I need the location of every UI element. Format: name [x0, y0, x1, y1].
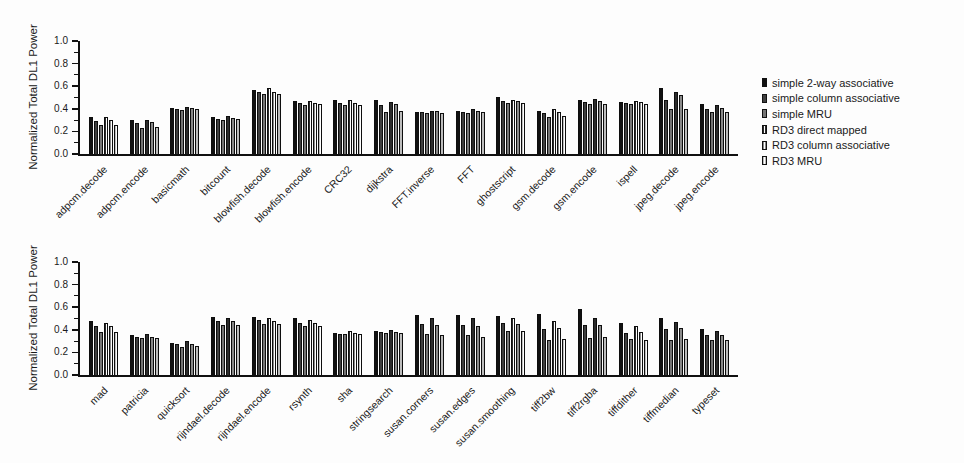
bar	[338, 103, 342, 154]
bar	[634, 101, 638, 154]
y-axis-major-tick	[72, 329, 78, 331]
y-axis-tick-label: 0.8	[38, 58, 68, 70]
y-axis-major-tick	[72, 63, 78, 65]
bar	[471, 318, 475, 375]
bar	[333, 100, 337, 154]
bar	[440, 335, 444, 375]
legend-item: RD3 column associative	[762, 137, 900, 153]
legend-item: RD3 MRU	[762, 153, 900, 169]
bar	[190, 344, 194, 375]
bar	[170, 343, 174, 375]
bar	[348, 100, 352, 154]
bar	[308, 101, 312, 154]
bar	[394, 104, 398, 154]
bar	[624, 103, 628, 154]
bar-group-tiff2rgba	[572, 262, 613, 375]
x-axis-label-cell: rijndael.encode	[244, 379, 285, 441]
x-axis-label-cell: CRC32	[326, 158, 367, 220]
bar	[430, 111, 434, 154]
bar	[593, 99, 597, 154]
bar	[430, 318, 434, 375]
bottom-panel-x-axis-labels: madpatriciaquicksortrijndael.decoderijnd…	[78, 379, 736, 441]
bar	[674, 92, 678, 154]
x-axis-tick-label: bitcount	[198, 163, 232, 197]
top-panel-x-axis-labels: adpcm.decodeadpcm.encodebasicmathbitcoun…	[78, 158, 736, 220]
bar	[679, 95, 683, 154]
bar	[720, 335, 724, 375]
legend-item: simple column associative	[762, 91, 900, 107]
bar-group-CRC32	[328, 41, 369, 154]
bar	[180, 347, 184, 375]
bar	[114, 332, 118, 375]
bar	[99, 332, 103, 375]
bar	[725, 112, 729, 154]
bar-group-tiffdither	[613, 262, 654, 375]
bar	[262, 94, 266, 154]
bar	[466, 335, 470, 375]
bar	[399, 111, 403, 154]
y-axis-tick-label: 0.0	[38, 369, 68, 381]
y-axis-major-tick	[72, 131, 78, 133]
bar	[562, 339, 566, 375]
bar	[425, 113, 429, 154]
legend-swatch-icon	[762, 78, 767, 87]
x-axis-label-cell: FFT.inverse	[407, 158, 448, 220]
bar	[461, 112, 465, 154]
bar	[104, 323, 108, 375]
x-axis-tick-label: patricia	[118, 384, 150, 416]
bar	[629, 339, 633, 375]
bar	[358, 334, 362, 375]
bar	[262, 324, 266, 375]
bar	[415, 112, 419, 154]
bar	[664, 329, 668, 375]
bar	[481, 112, 485, 154]
legend-label: simple MRU	[772, 108, 832, 120]
bar-group-adpcm.decode	[83, 41, 124, 154]
bar	[384, 112, 388, 154]
bar	[476, 326, 480, 375]
x-axis-tick-label: sha	[334, 384, 354, 404]
legend-label: RD3 direct mapped	[772, 124, 867, 136]
y-axis-minor-tick	[74, 318, 78, 319]
bar-group-FFT.inverse	[409, 41, 450, 154]
bar	[466, 113, 470, 154]
bar	[603, 104, 607, 154]
legend-item: RD3 direct mapped	[762, 122, 900, 138]
bar	[644, 340, 648, 375]
bar	[175, 344, 179, 375]
bar-group-ghostscript	[491, 41, 532, 154]
bar	[252, 90, 256, 154]
bar-group-rijndael.decode	[205, 262, 246, 375]
bar	[629, 104, 633, 154]
y-axis-major-tick	[72, 352, 78, 354]
bar	[353, 333, 357, 375]
y-axis-tick-label: 1.0	[38, 256, 68, 268]
bar	[236, 325, 240, 375]
bar	[150, 122, 154, 154]
bar-group-susan.corners	[409, 262, 450, 375]
bar	[619, 323, 623, 375]
legend-label: simple column associative	[772, 92, 900, 104]
bar	[547, 340, 551, 375]
bar	[298, 323, 302, 375]
y-axis-tick-label: 0.8	[38, 279, 68, 291]
legend-swatch-icon	[762, 156, 767, 165]
bar-group-susan.edges	[450, 262, 491, 375]
bar	[710, 340, 714, 375]
y-axis-tick-label: 0.2	[38, 346, 68, 358]
bar	[140, 338, 144, 375]
bar	[420, 324, 424, 375]
bar	[252, 317, 256, 375]
bar	[109, 326, 113, 375]
y-axis-minor-tick	[74, 74, 78, 75]
x-axis-tick-label: CRC32	[322, 163, 355, 196]
bar	[521, 103, 525, 154]
y-axis-minor-tick	[74, 273, 78, 274]
bar	[562, 116, 566, 154]
bar	[684, 109, 688, 154]
bar-group-blowfish.encode	[287, 41, 328, 154]
bar	[135, 337, 139, 375]
y-axis-minor-tick	[74, 120, 78, 121]
bar	[578, 100, 582, 154]
bar	[195, 346, 199, 375]
